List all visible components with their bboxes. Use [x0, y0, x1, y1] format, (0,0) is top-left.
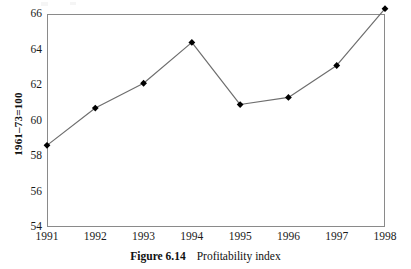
- x-tick-label: 1995: [214, 231, 266, 243]
- series-markers: [44, 5, 389, 148]
- figure-caption-title: Profitability index: [197, 250, 281, 262]
- x-tick-label: 1997: [311, 231, 363, 243]
- figure-caption: Figure 6.14Profitability index: [0, 250, 411, 262]
- x-tick-label: 1998: [359, 231, 411, 243]
- x-tick-label: 1996: [262, 231, 314, 243]
- figure-container: 1961–73=100 54565860626466 1991199219931…: [0, 0, 411, 269]
- x-tick-label: 1993: [118, 231, 170, 243]
- data-series-layer: [0, 0, 411, 269]
- figure-caption-number: Figure 6.14: [130, 250, 185, 262]
- data-point-marker: [285, 94, 292, 101]
- x-tick-label: 1994: [166, 231, 218, 243]
- x-tick-label: 1992: [69, 231, 121, 243]
- x-tick-label: 1991: [21, 231, 73, 243]
- series-line: [47, 9, 385, 146]
